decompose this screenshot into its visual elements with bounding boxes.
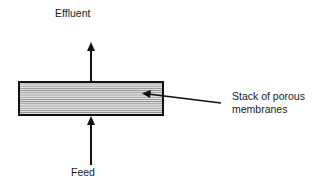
feed-label: Feed xyxy=(71,166,95,179)
callout-line-2: membranes xyxy=(232,103,305,116)
effluent-arrow xyxy=(87,42,95,82)
effluent-label: Effluent xyxy=(55,7,90,20)
callout-line-1: Stack of porous xyxy=(232,90,305,103)
stack-callout-label: Stack of porous membranes xyxy=(232,90,305,116)
membrane-stack xyxy=(19,82,163,115)
feed-arrow xyxy=(87,116,95,165)
